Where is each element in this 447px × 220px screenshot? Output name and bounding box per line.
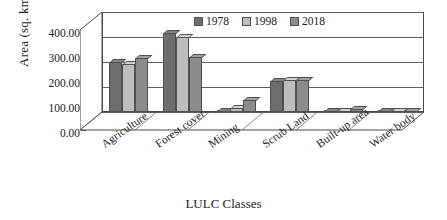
y-axis-tick-label: 100.00 [28,103,80,113]
bar-face [122,64,135,112]
legend-swatch [242,17,251,26]
bar-1998-mining[interactable] [230,108,243,113]
bar-top [176,34,193,38]
bar-face [189,57,202,113]
bar-top [296,77,313,81]
x-axis-title: LULC Classes [0,196,447,212]
bar-top [135,55,152,59]
y-axis-tick-label: 300.00 [28,53,80,63]
bar-face [109,62,122,112]
legend-item-1978[interactable]: 1978 [194,16,229,27]
legend-item-1998[interactable]: 1998 [242,16,277,27]
chart-legend: 197819982018 [194,15,325,28]
bar-1998-agriculture[interactable] [122,64,135,112]
bar-1978-built-up-area[interactable] [324,111,337,113]
bar-face [283,80,296,112]
bar-1978-scrub-land[interactable] [270,81,283,113]
bar-group [378,12,417,112]
bar-2018-forest-cover[interactable] [189,57,202,113]
plot-area [80,12,432,130]
chart-container: Area (sq. km.) 400.00300.00200.00100.000… [0,0,447,220]
bar-series-layer [80,12,432,130]
bar-face [163,33,176,112]
legend-label: 1978 [206,16,229,27]
x-axis-category-labels: AgricultureForest coverMiningScrub LandB… [80,132,432,184]
bar-top [189,54,206,58]
y-axis-tick-label: 0.00 [28,128,80,138]
bar-face [176,37,189,112]
legend-swatch [290,17,299,26]
y-axis-tick-label: 200.00 [28,78,80,88]
legend-label: 1998 [254,16,277,27]
legend-swatch [194,17,203,26]
bar-group [109,12,148,112]
legend-label: 2018 [302,16,325,27]
legend-item-2018[interactable]: 2018 [290,16,325,27]
bar-1978-forest-cover[interactable] [163,33,176,112]
bar-1998-forest-cover[interactable] [176,37,189,112]
bar-face [270,81,283,113]
bar-face [243,100,256,113]
bar-2018-agriculture[interactable] [135,58,148,112]
bar-face [296,80,309,112]
y-axis-tick-labels: 400.00300.00200.00100.000.00 [28,14,80,126]
bar-1978-agriculture[interactable] [109,62,122,112]
bar-face [135,58,148,112]
bar-1998-water-body[interactable] [391,111,404,113]
y-axis-tick-label: 400.00 [28,28,80,38]
bar-1978-mining[interactable] [217,111,230,113]
bar-group [324,12,363,112]
bar-1998-built-up-area[interactable] [337,111,350,113]
bar-2018-scrub-land[interactable] [296,80,309,112]
bar-1978-water-body[interactable] [378,111,391,113]
bar-top [243,97,260,101]
bar-1998-scrub-land[interactable] [283,80,296,112]
bar-top [163,30,180,34]
bar-2018-mining[interactable] [243,100,256,113]
